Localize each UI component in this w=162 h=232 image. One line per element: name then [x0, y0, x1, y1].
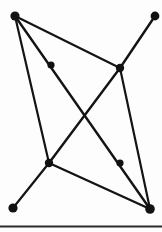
node-link-graph — [0, 0, 162, 232]
edge-top-left-to-right-hub — [15, 16, 120, 68]
edge-right-hub-to-lower-left-hub — [49, 68, 120, 163]
vertex-upper-left-midpoint — [47, 61, 54, 68]
edge-lower-left-hub-to-bottom-left — [13, 163, 49, 208]
vertex-top-right-terminal — [151, 12, 160, 21]
edge-top-left-to-lower-left-hub — [15, 16, 49, 163]
vertex-lower-left-hub — [45, 159, 53, 167]
vertex-lower-right-midpoint — [116, 159, 123, 166]
edge-top-right-to-right-hub — [120, 16, 155, 68]
vertex-bottom-left-terminal — [8, 203, 17, 212]
vertex-right-hub — [116, 64, 124, 72]
vertex-bottom-right-terminal — [145, 204, 155, 214]
vertex-top-left-terminal — [10, 11, 19, 20]
diagram-canvas — [0, 0, 162, 232]
edge-layer — [13, 16, 155, 209]
